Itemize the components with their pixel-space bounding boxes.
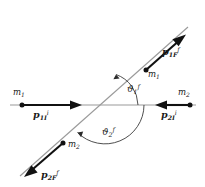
label-momentum-p2i: p2Ii	[161, 110, 177, 121]
label-mass-m1-final: m1	[148, 70, 160, 80]
label-mass-m2-initial: m2	[178, 88, 190, 98]
label-angle-theta2: ϑ2f	[102, 127, 115, 138]
label-angle-theta1: ϑ1f	[127, 84, 140, 95]
collision-vector-svg	[0, 0, 205, 187]
vector-p1i-arrowhead	[70, 101, 82, 110]
label-momentum-p2f: p2Ff	[41, 170, 59, 181]
label-momentum-p1i: p1Ii	[33, 110, 49, 121]
label-mass-m2-final: m2	[68, 140, 80, 150]
label-momentum-p1f: p1Ff	[162, 47, 180, 58]
vector-p2f-shaft	[33, 143, 63, 169]
label-mass-m1-initial: m1	[13, 88, 25, 98]
collision-diagram: m1 p1Ii m2 p2Ii m1 p1Ff m2 p2Ff ϑ1f ϑ2f	[0, 0, 205, 187]
vector-p1i	[20, 101, 83, 110]
